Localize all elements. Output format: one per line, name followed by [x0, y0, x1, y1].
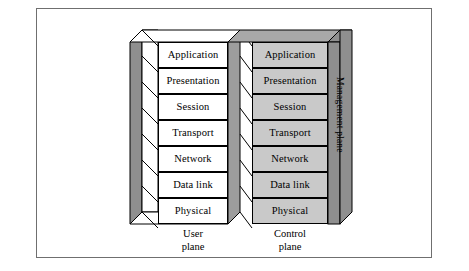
management-plane-label: Management plane — [335, 77, 345, 189]
control-layer-presentation: Presentation — [252, 68, 328, 94]
layer-label: Presentation — [166, 76, 219, 87]
control-plane-caption-line1: Control — [252, 228, 328, 241]
control-layer-application: Application — [252, 42, 328, 68]
user-plane-caption-line2: plane — [158, 241, 228, 254]
layer-label: Network — [271, 154, 308, 165]
user-layer-transport: Transport — [158, 120, 228, 146]
layer-label: Application — [168, 50, 219, 61]
control-plane-caption-line2: plane — [252, 241, 328, 254]
control-layer-data-link: Data link — [252, 172, 328, 198]
user-layer-data-link: Data link — [158, 172, 228, 198]
layer-label: Data link — [173, 180, 213, 191]
user-plane-top-face — [130, 30, 240, 42]
user-plane-caption-line1: User — [158, 228, 228, 241]
user-layer-physical: Physical — [158, 198, 228, 224]
control-plane-top-face — [228, 30, 340, 42]
control-layer-session: Session — [252, 94, 328, 120]
layer-label: Presentation — [263, 76, 316, 87]
left-slab-face — [130, 30, 142, 224]
control-layer-network: Network — [252, 146, 328, 172]
user-layer-session: Session — [158, 94, 228, 120]
user-layer-application: Application — [158, 42, 228, 68]
control-plane-depth-edges — [240, 30, 252, 228]
layer-label: Data link — [270, 180, 310, 191]
layer-label: Application — [265, 50, 316, 61]
cube-3d-shapes — [0, 0, 469, 271]
control-layer-transport: Transport — [252, 120, 328, 146]
control-layer-physical: Physical — [252, 198, 328, 224]
layer-label: Session — [274, 102, 307, 113]
protocol-reference-model-diagram: Application Presentation Session Transpo… — [0, 0, 469, 271]
layer-label: Network — [174, 154, 211, 165]
layer-label: Physical — [175, 206, 211, 217]
layer-label: Transport — [172, 128, 213, 139]
user-layer-presentation: Presentation — [158, 68, 228, 94]
middle-side-face — [228, 30, 240, 224]
control-plane-caption: Control plane — [252, 228, 328, 253]
layer-label: Physical — [272, 206, 308, 217]
layer-label: Transport — [269, 128, 310, 139]
user-layer-network: Network — [158, 146, 228, 172]
layer-label: Session — [177, 102, 210, 113]
user-plane-caption: User plane — [158, 228, 228, 253]
